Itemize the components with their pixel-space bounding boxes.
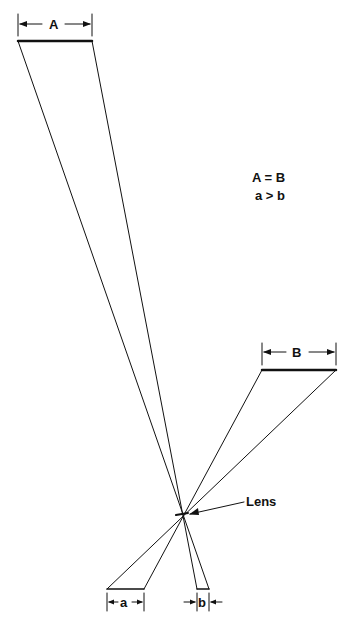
label-image-a: a	[120, 595, 128, 610]
arrow-a-right	[83, 21, 91, 27]
ray-a-left	[18, 41, 209, 589]
arrow-sa-left	[108, 600, 114, 605]
label-object-b: B	[292, 345, 301, 360]
lens-diagram: A B a b Lens	[0, 0, 354, 618]
label-object-a: A	[49, 17, 59, 32]
arrow-b-left	[263, 349, 271, 355]
relation-a-greater-b: a > b	[255, 188, 285, 203]
label-image-b: b	[198, 595, 206, 610]
arrow-b-right	[327, 349, 335, 355]
ray-a-right	[92, 41, 197, 589]
arrow-sa-right	[137, 600, 143, 605]
arrow-sb-left	[190, 600, 196, 605]
ray-b-right	[107, 370, 336, 589]
lens-mark	[176, 513, 188, 515]
relation-a-equals-b: A = B	[252, 170, 285, 185]
arrow-sb-right	[210, 600, 216, 605]
label-lens: Lens	[246, 494, 276, 509]
arrow-a-left	[19, 21, 27, 27]
